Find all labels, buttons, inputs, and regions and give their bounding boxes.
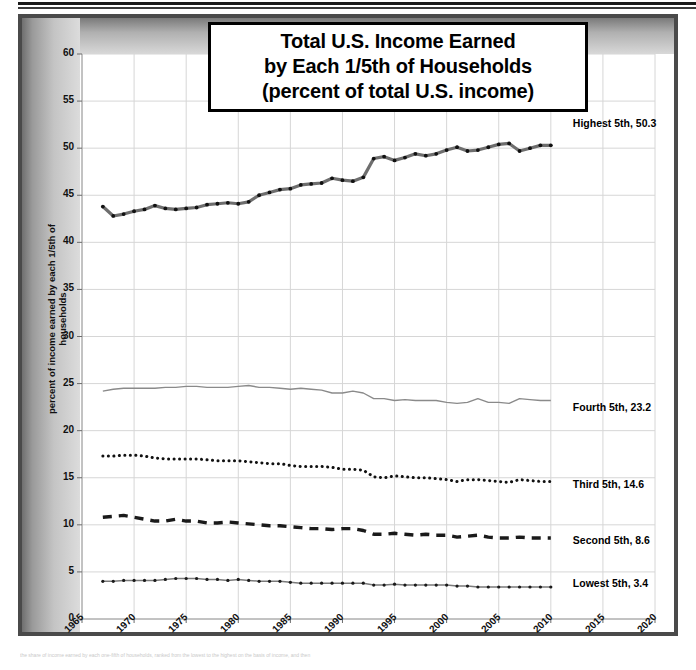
y-axis-tick-20: 20	[34, 424, 74, 435]
chart-figure-frame: percent of income earned by each 1/5th o…	[18, 14, 678, 636]
series-line-second-5th	[103, 515, 551, 538]
series-label-highest-5th: Highest 5th, 50.3	[573, 117, 656, 129]
series-label-lowest-5th: Lowest 5th, 3.4	[573, 577, 648, 589]
series-line-fourth-5th	[103, 385, 551, 403]
decorative-top-rule	[18, 2, 696, 5]
y-axis-tick-35: 35	[34, 282, 74, 293]
chart-axis-lines	[77, 54, 655, 623]
y-axis-tick-5: 5	[34, 565, 74, 576]
chart-gridlines	[82, 54, 655, 619]
y-axis-tick-50: 50	[34, 141, 74, 152]
y-axis-tick-45: 45	[34, 188, 74, 199]
y-axis-tick-30: 30	[34, 330, 74, 341]
y-axis-tick-60: 60	[34, 47, 74, 58]
series-line-lowest-5th	[103, 579, 551, 587]
y-axis-tick-40: 40	[34, 235, 74, 246]
y-axis-tick-15: 15	[34, 471, 74, 482]
chart-title-line-3: (percent of total U.S. income)	[219, 79, 577, 104]
page-footer-note: the share of income earned by each one-f…	[20, 652, 696, 658]
chart-series-layer	[101, 142, 553, 589]
series-label-third-5th: Third 5th, 14.6	[573, 478, 644, 490]
series-line-third-5th	[103, 455, 551, 482]
series-label-fourth-5th: Fourth 5th, 23.2	[573, 401, 651, 413]
series-line-highest-5th	[103, 143, 551, 216]
y-axis-tick-10: 10	[34, 518, 74, 529]
series-label-second-5th: Second 5th, 8.6	[573, 534, 650, 546]
decorative-top-rule-secondary	[18, 7, 696, 9]
y-axis-tick-55: 55	[34, 94, 74, 105]
y-axis-tick-25: 25	[34, 377, 74, 388]
chart-title: Total U.S. Income Earned by Each 1/5th o…	[208, 22, 588, 112]
chart-title-line-1: Total U.S. Income Earned	[219, 29, 577, 54]
chart-title-line-2: by Each 1/5th of Households	[219, 54, 577, 79]
